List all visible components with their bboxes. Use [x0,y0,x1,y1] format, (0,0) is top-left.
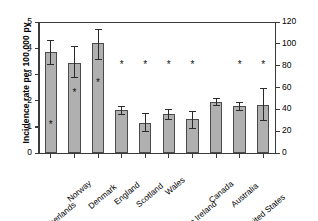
error-bar-line [121,106,122,114]
y-tick-label-left: 2 [14,95,32,105]
error-bar-line [145,113,146,131]
y-axis-left-line [38,22,39,154]
ab-prescription-marker: * [238,60,242,70]
error-bar-cap-upper [236,102,243,103]
x-tick [239,154,240,158]
x-tick [74,154,75,158]
y-tick-label-right: 20 [282,125,306,135]
error-bar-line [239,102,240,110]
error-bar-cap-lower [213,105,220,106]
error-bar-cap-lower [118,114,125,115]
y-tick-label-left: 3 [14,68,32,78]
y-tick-label-right: 120 [282,16,306,26]
error-bar-cap-lower [95,59,102,60]
error-bar-cap-upper [189,111,196,112]
chart-figure: Incidence rate per 100,000 py * ab presc… [0,0,317,221]
error-bar-line [98,29,99,59]
y-axis-right-title: * ab prescription rate (%) [316,10,318,160]
y-tick-right [276,153,280,154]
bar [45,52,58,153]
error-bar-cap-upper [47,40,54,41]
y-tick-right [276,109,280,110]
error-bar-cap-upper [95,29,102,30]
error-bar-cap-lower [236,110,243,111]
error-bar-cap-upper [260,88,267,89]
error-bar-cap-lower [189,128,196,129]
y-tick-label-left: 1 [14,121,32,131]
error-bar-line [263,88,264,121]
error-bar-cap-upper [118,106,125,107]
y-tick-right [276,131,280,132]
x-tick [192,154,193,158]
ab-prescription-marker: * [143,60,147,70]
x-tick [145,154,146,158]
error-bar-line [74,46,75,77]
y-axis-left-title: Incidence rate per 100,000 py [21,8,31,158]
ab-prescription-marker: * [96,78,100,88]
error-bar-line [50,40,51,64]
error-bar-cap-upper [165,109,172,110]
y-tick-label-right: 80 [282,60,306,70]
bar [115,110,128,153]
y-tick-left [35,153,39,154]
error-bar-cap-upper [213,98,220,99]
error-bar-line [168,109,169,119]
ab-prescription-marker: * [190,60,194,70]
y-tick-left [35,100,39,101]
x-tick [121,154,122,158]
y-tick-left [35,22,39,23]
bar [210,102,223,153]
error-bar-cap-lower [71,77,78,78]
bar [233,106,246,153]
y-tick-right [276,22,280,23]
x-tick [50,154,51,158]
error-bar-cap-lower [142,131,149,132]
error-bar-cap-lower [260,120,267,121]
y-tick-label-left: 4 [14,42,32,52]
y-tick-label-right: 40 [282,103,306,113]
error-bar-cap-lower [47,64,54,65]
x-tick [98,154,99,158]
ab-prescription-marker: * [49,120,53,130]
y-tick-label-right: 0 [282,147,306,157]
y-tick-left [35,74,39,75]
y-tick-label-left: 5 [14,16,32,26]
y-tick-label-right: 60 [282,82,306,92]
y-tick-label-left: 0 [14,147,32,157]
ab-prescription-marker: * [72,88,76,98]
error-bar-cap-upper [142,113,149,114]
y-tick-right [276,87,280,88]
error-bar-cap-lower [165,119,172,120]
ab-prescription-marker: * [120,60,124,70]
error-bar-cap-upper [71,46,78,47]
x-tick [168,154,169,158]
y-tick-label-right: 100 [282,38,306,48]
y-tick-right [276,65,280,66]
y-tick-left [35,48,39,49]
x-tick [263,154,264,158]
ab-prescription-marker: * [167,60,171,70]
error-bar-line [192,111,193,128]
y-tick-right [276,43,280,44]
ab-prescription-marker: * [261,60,265,70]
y-tick-left [35,126,39,127]
x-category-label: Wales [163,175,187,197]
x-tick [216,154,217,158]
